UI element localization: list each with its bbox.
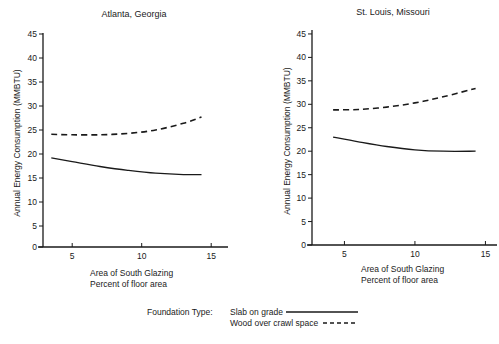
y-tick-label: 0: [301, 240, 306, 250]
series-group: [333, 88, 476, 151]
y-tick-label: 15: [297, 170, 307, 180]
axes: 05101520253035404551015: [28, 29, 228, 261]
legend-entry-dashed-label: Wood over crawl space: [230, 318, 318, 328]
x-tick-label: 5: [70, 251, 75, 261]
x-axis-label: Area of South Glazing: [90, 268, 173, 278]
y-tick-label: 25: [297, 123, 307, 133]
x-axis-label-sub: Percent of floor area: [361, 275, 438, 285]
y-tick-label: 40: [28, 53, 38, 63]
y-tick-label: 45: [297, 29, 307, 39]
axes: 05101520253035404551015: [297, 29, 497, 259]
chart-title: St. Louis, Missouri: [356, 7, 430, 17]
series-slab-on-grade: [333, 137, 476, 151]
y-tick-label: 35: [297, 76, 307, 86]
y-tick-label: 5: [301, 217, 306, 227]
y-tick-label: 45: [28, 29, 38, 39]
chart-figure: Atlanta, Georgia Annual Energy Consumpti…: [0, 0, 499, 344]
legend: Foundation Type: Slab on grade Wood over…: [147, 307, 358, 328]
y-tick-label: 30: [28, 101, 38, 111]
y-tick-label: 30: [297, 99, 307, 109]
x-tick-label: 15: [481, 249, 491, 259]
series-group: [51, 117, 201, 175]
y-tick-label: 40: [297, 52, 307, 62]
y-tick-label: 5: [32, 221, 37, 231]
chart-atlanta: Atlanta, Georgia Annual Energy Consumpti…: [12, 9, 228, 289]
x-tick-label: 15: [206, 251, 216, 261]
series-wood-over-crawl-space: [333, 88, 476, 110]
y-axis-label: Annual Energy Consumption (MMBTU): [282, 67, 292, 215]
chart-st-louis: St. Louis, Missouri Annual Energy Consum…: [282, 7, 497, 285]
y-tick-label: 35: [28, 77, 38, 87]
x-tick-label: 10: [137, 251, 147, 261]
chart-title: Atlanta, Georgia: [101, 9, 166, 19]
y-tick-label: 10: [297, 193, 307, 203]
y-tick-label: 25: [28, 125, 38, 135]
x-tick-label: 5: [342, 249, 347, 259]
x-axis-label: Area of South Glazing: [361, 264, 444, 274]
legend-entry-solid-label: Slab on grade: [230, 307, 283, 317]
x-tick-label: 10: [410, 249, 420, 259]
y-tick-label: 15: [28, 173, 38, 183]
y-axis-label: Annual Energy Consumption (MMBTU): [12, 69, 22, 217]
y-tick-label: 20: [297, 146, 307, 156]
x-axis-label-sub: Percent of floor area: [90, 279, 167, 289]
y-tick-label: 10: [28, 197, 38, 207]
y-tick-label: 0: [32, 242, 37, 252]
series-wood-over-crawl-space: [51, 117, 201, 135]
series-slab-on-grade: [51, 158, 201, 175]
legend-title: Foundation Type:: [147, 307, 213, 317]
y-tick-label: 20: [28, 149, 38, 159]
